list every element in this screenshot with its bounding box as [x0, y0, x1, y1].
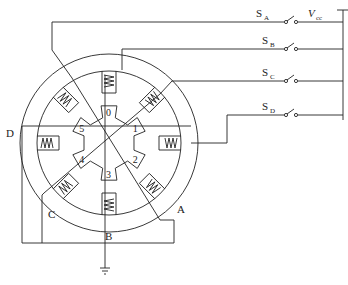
rotor-tooth-label: 3	[106, 169, 111, 180]
rotor-tooth-label: 2	[133, 154, 138, 165]
phase-label-a: A	[177, 203, 185, 215]
phase-label-c: C	[48, 208, 55, 220]
switch-row-b: S B	[125, 34, 343, 51]
switch-subscript-d: D	[270, 107, 275, 115]
ground-icon	[100, 268, 110, 274]
switch-label-b: S	[262, 34, 268, 46]
rotor-tooth-label: 5	[79, 123, 84, 134]
phase-a-wiring	[52, 22, 174, 243]
stator-pole	[102, 193, 116, 215]
vcc-label: V	[308, 7, 316, 19]
switch-subscript-a: A	[264, 14, 269, 22]
switch-row-d: S D	[227, 100, 343, 117]
phase-label-b: B	[105, 230, 112, 242]
switch-subscript-b: B	[270, 41, 275, 49]
switch-subscript-c: C	[270, 73, 275, 81]
stator-pole	[53, 173, 78, 198]
stator-pole	[37, 136, 59, 150]
phase-c-wiring	[42, 81, 183, 243]
stator-outer-ring	[20, 54, 198, 232]
rotor-tooth-label: 1	[133, 123, 138, 134]
supply-rail	[337, 10, 348, 120]
stator-pole	[159, 136, 181, 150]
phase-d-wiring	[22, 115, 227, 243]
stator-pole	[53, 87, 78, 112]
switch-label-a: S	[256, 7, 262, 19]
phase-label-d: D	[6, 127, 14, 139]
stator-pole	[139, 173, 164, 198]
vcc-subscript: cc	[316, 14, 322, 22]
switch-row-a: S A V cc	[52, 7, 343, 24]
switch-row-c: S C	[183, 66, 343, 83]
stepper-motor-diagram: S A V cc S B S C S D 012345	[0, 0, 348, 285]
rotor: 012345	[73, 106, 145, 180]
stator-poles	[37, 71, 181, 215]
switch-label-c: S	[262, 66, 268, 78]
stator-pole	[102, 71, 116, 93]
switch-label-d: S	[262, 100, 268, 112]
rotor-tooth-label: 0	[106, 107, 111, 118]
